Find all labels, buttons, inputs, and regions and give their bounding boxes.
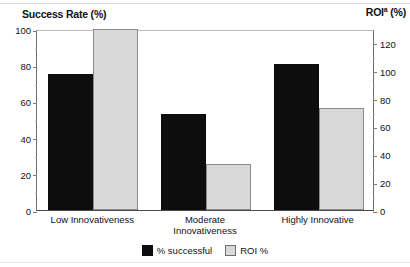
chart-figure: Success Rate (%) ROIa (%) 020406080100 0… [0, 0, 410, 267]
right-axis-tick [373, 44, 377, 45]
bar [206, 164, 251, 210]
right-axis-minor-tick [373, 198, 375, 199]
right-axis-minor-tick [373, 86, 375, 87]
bar [93, 29, 138, 210]
left-axis-tick [33, 212, 37, 213]
right-axis-tick [373, 72, 377, 73]
chart-legend: % successfulROI % [0, 245, 410, 256]
right-axis-title-base: ROI [366, 6, 384, 18]
plot-area: 020406080100 020406080100120 [36, 30, 374, 211]
right-axis-tick [373, 128, 377, 129]
left-axis-tick [33, 175, 37, 176]
right-axis-tick-label: 0 [380, 207, 385, 217]
scan-artifact-line-bottom [0, 262, 410, 263]
right-axis-title: ROIa (%) [366, 6, 406, 18]
left-axis-title: Success Rate (%) [22, 8, 106, 20]
right-axis-tick-label: 80 [380, 96, 391, 106]
right-axis-tick-label: 100 [380, 68, 396, 78]
left-axis-tick-label: 60 [20, 98, 31, 108]
left-axis-minor-tick [35, 49, 37, 50]
left-axis-tick [33, 103, 37, 104]
right-axis-minor-tick [373, 58, 375, 59]
left-axis-tick [33, 31, 37, 32]
left-axis-minor-tick [35, 193, 37, 194]
right-axis-tick-label: 40 [380, 151, 391, 161]
x-axis-category-label: Moderate Innovativeness [149, 214, 262, 236]
legend-label: ROI % [240, 245, 268, 256]
bar [274, 64, 319, 210]
left-axis-minor-tick [35, 121, 37, 122]
legend-label: % successful [157, 245, 212, 256]
left-axis-tick [33, 139, 37, 140]
x-axis-category-label: Highly Innovative [261, 214, 374, 225]
bar [48, 74, 93, 210]
x-axis-category-label: Low Innovativeness [36, 214, 149, 225]
left-axis-minor-tick [35, 157, 37, 158]
legend-swatch-icon [225, 245, 236, 256]
left-axis-tick-label: 20 [20, 171, 31, 181]
left-axis-tick-label: 0 [26, 207, 31, 217]
legend-swatch-icon [142, 245, 153, 256]
left-axis-tick [33, 67, 37, 68]
right-axis-tick-label: 60 [380, 123, 391, 133]
right-axis-tick-label: 20 [380, 179, 391, 189]
right-axis-tick [373, 156, 377, 157]
right-axis-tick [373, 184, 377, 185]
legend-item: ROI % [225, 245, 268, 256]
scan-artifact-line-top [0, 3, 410, 4]
right-axis-tick [373, 212, 377, 213]
right-axis-tick [373, 100, 377, 101]
right-axis-minor-tick [373, 170, 375, 171]
left-axis-tick-label: 100 [15, 26, 31, 36]
right-axis-title-suffix: (%) [388, 6, 406, 18]
right-axis-minor-tick [373, 114, 375, 115]
bar [161, 114, 206, 210]
right-axis-minor-tick [373, 142, 375, 143]
legend-item: % successful [142, 245, 212, 256]
left-axis-minor-tick [35, 85, 37, 86]
left-axis-tick-label: 80 [20, 62, 31, 72]
right-axis-tick-label: 120 [380, 40, 396, 50]
bar [319, 108, 364, 210]
left-axis-tick-label: 40 [20, 135, 31, 145]
